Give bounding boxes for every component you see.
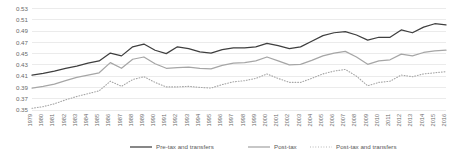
x-axis-tick-label: 1986 bbox=[105, 114, 111, 126]
x-axis-tick-label: 2002 bbox=[284, 114, 290, 126]
x-axis-tick-label: 1994 bbox=[195, 114, 201, 126]
x-axis-tick-label: 2006 bbox=[329, 114, 335, 126]
y-axis-tick-labels: 0.350.370.390.410.430.450.470.490.510.53 bbox=[16, 5, 29, 114]
series-line bbox=[32, 24, 446, 75]
x-axis-tick-label: 1983 bbox=[72, 114, 78, 126]
legend-label: Pre-tax and transfers bbox=[156, 143, 214, 150]
x-axis-tick-label: 1988 bbox=[128, 114, 134, 126]
x-axis-tick-label: 2003 bbox=[296, 114, 302, 126]
y-axis-tick-label: 0.47 bbox=[16, 39, 29, 46]
x-axis-tick-label: 2005 bbox=[318, 114, 324, 126]
line-chart: 0.350.370.390.410.430.450.470.490.510.53… bbox=[0, 0, 449, 155]
x-axis-tick-label: 2004 bbox=[307, 114, 313, 126]
chart-legend: Pre-tax and transfersPost-taxPost-tax an… bbox=[130, 143, 397, 150]
x-axis-tick-label: 1999 bbox=[251, 114, 257, 126]
x-axis-tick-label: 2014 bbox=[419, 114, 425, 126]
x-axis-tick-label: 1981 bbox=[49, 114, 55, 126]
x-axis-tick-label: 1987 bbox=[117, 114, 123, 126]
data-series-group bbox=[32, 24, 446, 109]
series-line bbox=[32, 69, 446, 108]
x-axis-tick-label: 2010 bbox=[374, 114, 380, 126]
y-axis-tick-label: 0.41 bbox=[16, 72, 29, 79]
x-axis-tick-label: 1997 bbox=[228, 114, 234, 126]
x-axis-tick-label: 2015 bbox=[430, 114, 436, 126]
x-axis-tick-label: 2001 bbox=[273, 114, 279, 126]
legend-label: Post-tax and transfers bbox=[336, 143, 397, 150]
x-axis-tick-label: 1991 bbox=[161, 114, 167, 126]
chart-canvas: 0.350.370.390.410.430.450.470.490.510.53… bbox=[0, 0, 449, 155]
x-axis-tick-label: 2012 bbox=[396, 114, 402, 126]
x-axis-tick-label: 1992 bbox=[172, 114, 178, 126]
x-axis-tick-label: 1985 bbox=[94, 114, 100, 126]
x-axis-tick-label: 1993 bbox=[184, 114, 190, 126]
y-axis-tick-label: 0.37 bbox=[16, 95, 29, 102]
x-axis-tick-label: 1980 bbox=[38, 114, 44, 126]
x-axis-tick-label: 2009 bbox=[363, 114, 369, 126]
series-line bbox=[32, 50, 446, 88]
x-axis-tick-label: 1990 bbox=[150, 114, 156, 126]
y-axis-tick-label: 0.49 bbox=[16, 27, 29, 34]
x-axis-tick-label: 2011 bbox=[385, 114, 391, 126]
y-axis-tick-label: 0.45 bbox=[16, 50, 29, 57]
y-axis-tick-label: 0.35 bbox=[16, 106, 29, 113]
y-axis-tick-label: 0.51 bbox=[16, 16, 29, 23]
x-axis-tick-label: 1979 bbox=[27, 114, 33, 126]
x-axis-tick-label: 2013 bbox=[407, 114, 413, 126]
x-axis-tick-label: 1989 bbox=[139, 114, 145, 126]
gridlines bbox=[32, 9, 446, 111]
y-axis-tick-label: 0.43 bbox=[16, 61, 29, 68]
x-axis-tick-label: 2008 bbox=[351, 114, 357, 126]
x-axis-tick-label: 2016 bbox=[441, 114, 447, 126]
x-axis-tick-label: 1996 bbox=[217, 114, 223, 126]
legend-label: Post-tax bbox=[274, 143, 298, 150]
x-axis-tick-label: 1984 bbox=[83, 114, 89, 126]
y-axis-tick-label: 0.39 bbox=[16, 84, 29, 91]
y-axis-tick-label: 0.53 bbox=[16, 5, 29, 12]
x-axis-tick-label: 1982 bbox=[61, 114, 67, 126]
x-axis-tick-label: 1995 bbox=[206, 114, 212, 126]
x-axis-tick-labels: 1979198019811982198319841985198619871988… bbox=[27, 114, 447, 126]
x-axis-tick-label: 1998 bbox=[240, 114, 246, 126]
x-axis-tick-label: 2007 bbox=[340, 114, 346, 126]
x-axis-tick-label: 2000 bbox=[262, 114, 268, 126]
